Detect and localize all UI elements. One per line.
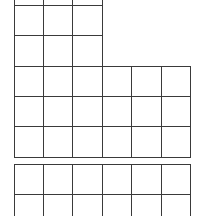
grid-col-line — [43, 164, 44, 216]
grid-col-line — [161, 164, 162, 216]
grid-col-line — [102, 164, 103, 216]
grid-col-line — [131, 164, 132, 216]
grid-col-line — [72, 0, 73, 67]
grid-col-line — [72, 164, 73, 216]
grid-row-line — [14, 35, 103, 36]
grid-col-line — [14, 0, 15, 67]
grid-col-line — [102, 0, 103, 67]
grid-col-line — [190, 164, 191, 216]
grid-col-line — [102, 66, 103, 158]
grid-col-line — [43, 0, 44, 67]
grid-col-line — [161, 66, 162, 158]
grid-col-line — [72, 66, 73, 158]
grid-col-line — [14, 164, 15, 216]
grid-col-line — [14, 66, 15, 158]
grid-row-line — [14, 5, 103, 6]
grid-col-line — [43, 66, 44, 158]
grid-col-line — [190, 66, 191, 158]
grid-col-line — [131, 66, 132, 158]
